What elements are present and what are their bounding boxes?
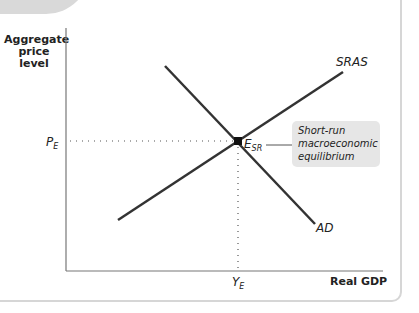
callout-line1: Short-run xyxy=(298,124,374,137)
equilibrium-callout: Short-run macroeconomic equilibrium xyxy=(292,121,380,167)
ad-label: AD xyxy=(315,221,333,235)
x-axis-label: Real GDP xyxy=(330,275,387,288)
sras-label: SRAS xyxy=(336,55,368,69)
ye-label: YE xyxy=(232,275,245,291)
callout-line3: equilibrium xyxy=(298,150,374,163)
pe-label: PE xyxy=(46,135,59,151)
equilibrium-point xyxy=(234,137,242,145)
callout-line2: macroeconomic xyxy=(298,137,374,150)
esr-label: ESR xyxy=(244,137,262,153)
